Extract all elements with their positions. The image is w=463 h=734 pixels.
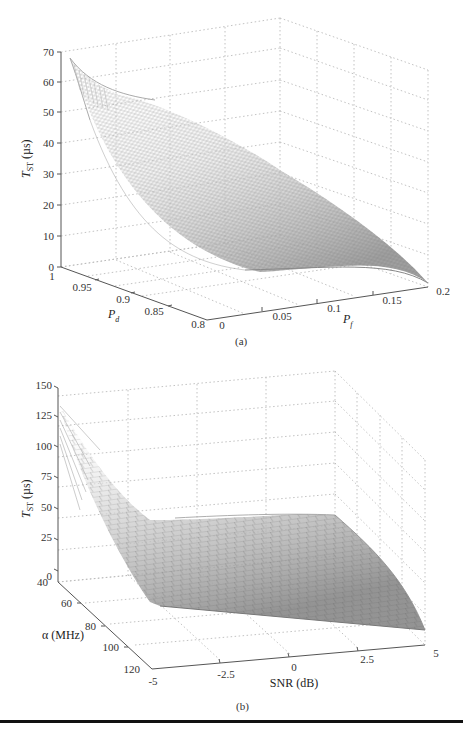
svg-text:1: 1 (49, 270, 55, 282)
plot-a-surface (70, 58, 428, 283)
figure-bottom-rule (0, 720, 463, 723)
plot-b-z-label: TST (µs) (19, 479, 35, 518)
plot-b-x-label: SNR (dB) (270, 676, 318, 690)
svg-text:60: 60 (61, 597, 73, 609)
svg-text:0.95: 0.95 (72, 281, 92, 293)
svg-text:150: 150 (36, 379, 53, 391)
svg-text:80: 80 (85, 620, 97, 632)
svg-text:40: 40 (37, 576, 49, 588)
svg-text:40: 40 (43, 137, 55, 149)
plot-b-canvas: 0 25 50 75 100 125 150 40 60 80 100 120 … (0, 370, 463, 700)
svg-text:100: 100 (36, 440, 53, 452)
svg-text:TST (µs): TST (µs) (19, 479, 35, 518)
plot-b-y-ticks: 40 60 80 100 120 (37, 576, 141, 675)
plot-a-y-label: Pd (107, 307, 120, 324)
svg-text:50: 50 (43, 106, 55, 118)
svg-text:0.05: 0.05 (272, 310, 292, 322)
svg-text:30: 30 (43, 168, 55, 180)
svg-text:0.15: 0.15 (382, 294, 402, 306)
svg-text:120: 120 (124, 663, 141, 675)
surface-plot-b: 0 25 50 75 100 125 150 40 60 80 100 120 … (0, 370, 463, 700)
svg-text:25: 25 (41, 531, 53, 543)
svg-text:60: 60 (43, 76, 55, 88)
surface-plot-a: 0 10 20 30 40 50 60 70 1 0.95 0.9 0.85 0… (0, 0, 463, 370)
svg-text:0: 0 (291, 661, 297, 673)
plot-a-canvas: 0 10 20 30 40 50 60 70 1 0.95 0.9 0.85 0… (0, 0, 463, 370)
plot-a-y-ticks: 1 0.95 0.9 0.85 0.8 (49, 270, 205, 330)
plot-b-z-ticks: 0 25 50 75 100 125 150 (36, 379, 53, 582)
svg-text:10: 10 (43, 230, 55, 242)
svg-text:-2.5: -2.5 (217, 668, 235, 680)
svg-text:-5: -5 (148, 675, 158, 687)
svg-text:100: 100 (103, 641, 120, 653)
svg-text:5: 5 (433, 647, 439, 659)
svg-text:75: 75 (41, 470, 53, 482)
plot-b-caption: (b) (236, 700, 249, 712)
svg-text:0.9: 0.9 (116, 293, 130, 305)
svg-text:0.1: 0.1 (327, 302, 341, 314)
plot-a-z-ticks: 0 10 20 30 40 50 60 70 (43, 46, 55, 273)
plot-a-caption: (a) (235, 335, 247, 347)
plot-b-surface (60, 406, 425, 630)
svg-text:50: 50 (41, 501, 53, 513)
svg-text:70: 70 (43, 46, 55, 58)
svg-text:0.8: 0.8 (191, 318, 205, 330)
svg-text:0: 0 (219, 319, 225, 331)
svg-text:TST (µs): TST (µs) (19, 139, 35, 178)
svg-text:0.2: 0.2 (436, 285, 450, 297)
svg-text:0.85: 0.85 (144, 305, 164, 317)
plot-b-y-label: α (MHz) (42, 628, 84, 642)
svg-text:125: 125 (36, 409, 53, 421)
svg-text:2.5: 2.5 (360, 653, 374, 665)
plot-a-x-label: Pf (342, 312, 354, 329)
plot-a-z-label: TST (µs) (19, 139, 35, 178)
svg-text:20: 20 (43, 199, 55, 211)
plot-a-x-ticks: 0 0.05 0.1 0.15 0.2 (219, 285, 450, 331)
